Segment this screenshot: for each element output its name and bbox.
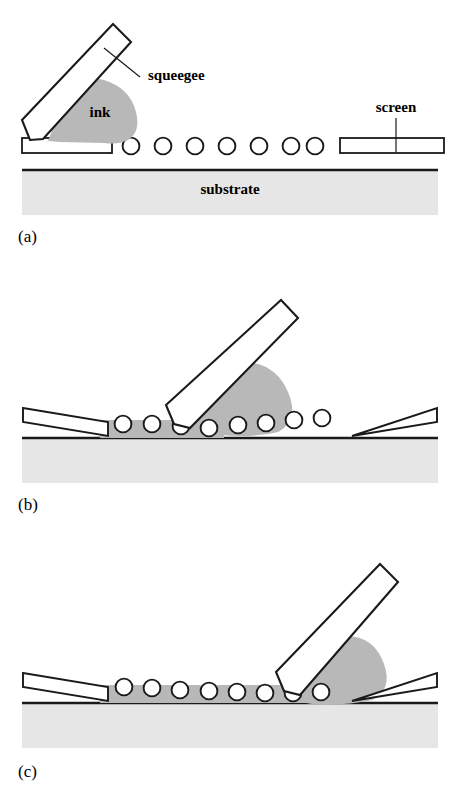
mesh-opening xyxy=(283,138,300,155)
screen-label: screen xyxy=(376,99,417,115)
mesh-opening xyxy=(229,684,246,701)
panel-caption-a: (a) xyxy=(18,227,37,246)
mesh-opening xyxy=(251,138,268,155)
mesh-opening xyxy=(286,412,303,429)
mesh-opening xyxy=(116,679,133,696)
screen-bar-right xyxy=(340,138,444,153)
mesh-opening xyxy=(258,415,275,432)
substrate-group-b xyxy=(22,438,438,483)
panel-caption-c: (c) xyxy=(18,762,37,781)
ink-label: ink xyxy=(90,104,112,120)
mesh-opening xyxy=(313,684,330,701)
panel-caption-b: (b) xyxy=(18,495,38,514)
panel-c-diagram: (c) xyxy=(0,540,460,793)
mesh-opening xyxy=(230,417,247,434)
panel-a-diagram: substrate screen xyxy=(0,0,460,270)
mesh-opening xyxy=(201,683,218,700)
mesh-opening-row-a xyxy=(123,138,330,155)
screen-bar-right xyxy=(352,408,437,436)
mesh-opening xyxy=(219,138,236,155)
substrate-label: substrate xyxy=(200,181,260,197)
panel-b-diagram: (b) xyxy=(0,270,460,540)
substrate-body xyxy=(22,438,438,483)
squeegee-label: squeegee xyxy=(148,67,205,83)
substrate-body xyxy=(22,703,438,748)
substrate-group-a: substrate xyxy=(22,170,438,215)
mesh-opening xyxy=(144,680,161,697)
panel-c: (c) xyxy=(0,540,460,793)
mesh-opening xyxy=(257,685,274,702)
mesh-opening xyxy=(144,416,161,433)
mesh-opening xyxy=(314,410,331,427)
mesh-opening xyxy=(115,416,132,433)
mesh-opening xyxy=(155,138,172,155)
screen-printing-figure: substrate screen xyxy=(0,0,460,793)
substrate-group-c xyxy=(22,703,438,748)
panel-a: substrate screen xyxy=(0,0,460,270)
panel-b: (b) xyxy=(0,270,460,540)
mesh-opening xyxy=(187,138,204,155)
screen-bar-left xyxy=(23,673,108,701)
mesh-opening xyxy=(307,138,324,155)
mesh-opening xyxy=(201,420,218,437)
screen-bar-left xyxy=(23,408,108,436)
mesh-opening xyxy=(172,682,189,699)
